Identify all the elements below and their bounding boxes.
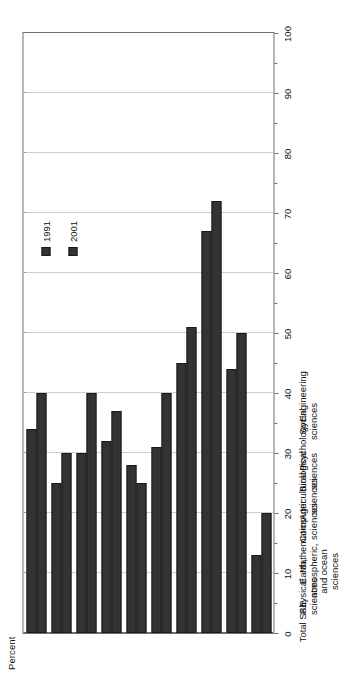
bar-2001 <box>36 393 46 633</box>
legend-item-2001[interactable]: 2001 <box>67 221 78 256</box>
legend-swatch-2001 <box>68 247 77 256</box>
category-label: Engineering <box>297 370 308 423</box>
bar-group <box>223 33 248 633</box>
bar-group <box>98 33 123 633</box>
legend-label: 1991 <box>40 221 51 242</box>
bar-2001 <box>261 513 271 633</box>
bar-group <box>248 33 273 633</box>
bar-1991 <box>26 429 36 633</box>
bar-group <box>123 33 148 633</box>
legend-item-1991[interactable]: 1991 <box>40 221 51 256</box>
bar-2001 <box>61 453 71 633</box>
category-labels: Total S&EPhysical sciencesEarth, atmosph… <box>275 32 353 634</box>
chart-legend: 19912001 <box>40 221 78 256</box>
bar-1991 <box>251 555 261 633</box>
bar-1991 <box>76 453 86 633</box>
bar-2001 <box>236 333 246 633</box>
bar-1991 <box>126 465 136 633</box>
bar-group <box>173 33 198 633</box>
bar-group <box>48 33 73 633</box>
bar-2001 <box>186 327 196 633</box>
bar-1991 <box>51 483 61 633</box>
bar-1991 <box>151 447 161 633</box>
bar-1991 <box>226 369 236 633</box>
bar-2001 <box>161 393 171 633</box>
bar-group <box>148 33 173 633</box>
bar-1991 <box>176 363 186 633</box>
bar-group <box>198 33 223 633</box>
bar-2001 <box>86 393 96 633</box>
bar-1991 <box>101 441 111 633</box>
plot-area <box>22 32 274 634</box>
legend-label: 2001 <box>67 221 78 242</box>
bar-group <box>23 33 48 633</box>
bar-2001 <box>136 483 146 633</box>
legend-swatch-1991 <box>41 247 50 256</box>
bar-2001 <box>111 411 121 633</box>
rotated-chart-container: Percent 0102030405060708090100 Total S&E… <box>0 0 353 674</box>
axis-title-percent: Percent <box>5 637 16 670</box>
bar-2001 <box>211 201 221 633</box>
bar-1991 <box>201 231 211 633</box>
chart-canvas: Percent 0102030405060708090100 Total S&E… <box>0 0 353 674</box>
bar-group <box>73 33 98 633</box>
